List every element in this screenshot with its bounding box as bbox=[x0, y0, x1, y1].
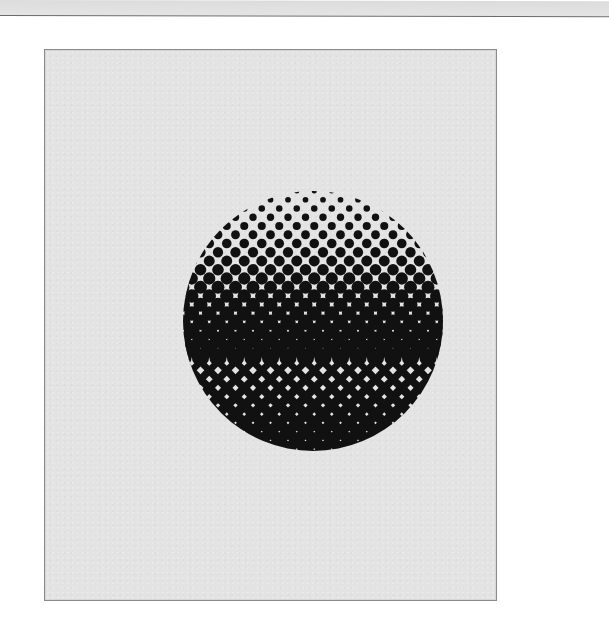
halftone-dark-band bbox=[181, 359, 445, 453]
halftone-sphere bbox=[0, 0, 609, 643]
halftone-dots bbox=[157, 180, 463, 453]
